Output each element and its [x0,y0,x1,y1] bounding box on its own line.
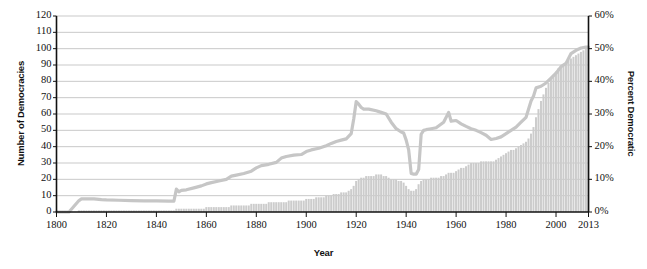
bar [465,166,467,212]
x-axis-tick-label: 1840 [134,219,178,230]
bar [240,205,242,212]
x-axis-tick-label: 1800 [35,219,79,230]
bar [375,174,377,212]
y-axis-left-tick-label: 70 [20,91,52,102]
bar [328,196,330,212]
bar [552,75,554,212]
bar [320,197,322,212]
bar [390,179,392,212]
bar [233,205,235,212]
bar [540,101,542,212]
bar [270,202,272,212]
y-axis-right-tick-label: 10% [595,172,635,183]
y-axis-right-tick-label: 0% [595,205,635,216]
bar [243,205,245,212]
y-axis-left-tick-label: 40 [20,140,52,151]
bar [395,179,397,212]
bar [423,179,425,212]
bar [255,204,257,212]
y-axis-left-tick-label: 80 [20,74,52,85]
bar [440,176,442,212]
y-axis-right-tick-label: 60% [595,9,635,20]
bar [425,179,427,212]
bar [435,178,437,212]
bar [300,201,302,212]
bar [345,192,347,212]
bar [230,205,232,212]
bar [542,94,544,212]
bar [585,49,587,212]
bar [428,179,430,212]
bar [323,197,325,212]
bar [380,174,382,212]
democracy-chart: Number of Democracies Percent Democratic… [0,0,647,269]
bar [547,83,549,212]
bar [305,199,307,212]
bar [448,173,450,212]
y-axis-left-tick-label: 100 [20,42,52,53]
y-axis-right-tick-label: 50% [595,42,635,53]
bar [348,191,350,212]
bar [413,191,415,212]
bar [455,171,457,212]
bar [353,186,355,212]
bar [393,179,395,212]
bar [290,201,292,212]
bar [577,54,579,212]
x-axis-tick-label: 1880 [234,219,278,230]
bar [572,57,574,212]
x-axis-tick-label: 1860 [184,219,228,230]
bar [280,202,282,212]
bar [405,186,407,212]
y-axis-left-tick-label: 20 [20,172,52,183]
x-axis-tick-label: 1980 [484,219,528,230]
bar [470,163,472,212]
bar [485,161,487,212]
bar [458,170,460,212]
bar [550,78,552,212]
bar [562,65,564,212]
y-axis-right-tick-label: 40% [595,74,635,85]
bar [343,192,345,212]
bar [365,176,367,212]
bar [510,150,512,212]
bar [370,176,372,212]
bar [398,181,400,212]
bar [245,205,247,212]
bar [560,67,562,212]
bar [475,163,477,212]
bar [505,153,507,212]
y-axis-left-tick-label: 120 [20,9,52,20]
bar [438,178,440,212]
bar [238,205,240,212]
bar [418,184,420,212]
bar [493,161,495,212]
bar [310,199,312,212]
bar [535,117,537,212]
y-axis-left-tick-label: 110 [20,25,52,36]
bar [360,178,362,212]
bar [463,168,465,212]
bar [248,205,250,212]
bar [298,201,300,212]
bar [460,168,462,212]
bar [525,142,527,212]
bar [258,204,260,212]
y-axis-left-tick-label: 50 [20,123,52,134]
bar [303,201,305,212]
bar [288,201,290,212]
bar [363,178,365,212]
bar [253,204,255,212]
y-axis-left-tick-label: 90 [20,58,52,69]
bar [358,179,360,212]
y-axis-right-tick-label: 20% [595,140,635,151]
bar [378,174,380,212]
bar [315,197,317,212]
bar [567,60,569,212]
bar [373,176,375,212]
bar [488,161,490,212]
bar [433,178,435,212]
y-axis-left-tick-label: 60 [20,107,52,118]
y-axis-right-tick-label: 30% [595,107,635,118]
bar [335,194,337,212]
